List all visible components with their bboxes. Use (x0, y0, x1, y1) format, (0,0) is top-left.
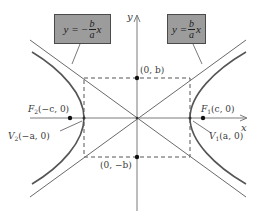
label-f1: F1(c, 0) (200, 104, 235, 115)
focus-f1 (201, 116, 205, 120)
denominator: a (90, 30, 95, 40)
fraction: ba (188, 19, 195, 40)
leader-line-v2 (60, 121, 82, 131)
label-v1: V1(a, 0) (209, 131, 243, 142)
label-0-b: (0, b) (140, 65, 164, 75)
denominator: a (189, 30, 194, 40)
fraction: ba (89, 19, 96, 40)
point-0-neg-b (135, 155, 139, 159)
asymptote-positive-label: y = bax (167, 14, 206, 44)
numerator: b (188, 19, 195, 30)
label-0-neg-b: (0, −b) (100, 160, 132, 170)
asymptote-negative-label: y = − bax (54, 14, 111, 44)
leader-line-negative (72, 44, 80, 64)
vertex-v1 (189, 117, 192, 120)
vertex-v2 (83, 117, 86, 120)
focus-f2 (68, 116, 72, 120)
eq-lhs: y = (64, 23, 79, 35)
label-f2: F2(−c, 0) (27, 104, 69, 115)
eq-lhs: y = (172, 23, 187, 35)
label-v2: V2(−a, 0) (8, 131, 50, 142)
eq-var: x (97, 23, 102, 35)
origin (136, 117, 139, 120)
y-axis (134, 15, 140, 211)
eq-var: x (196, 23, 201, 35)
eq-sign: − (81, 23, 87, 35)
hyperbola-diagram: y x (0, b) (0, −b) F2(−c, 0) F1(c, 0) V2… (0, 0, 264, 219)
numerator: b (89, 19, 96, 30)
leader-line-positive (193, 44, 202, 64)
point-0-b (135, 76, 139, 80)
y-axis-label: y (126, 11, 133, 22)
